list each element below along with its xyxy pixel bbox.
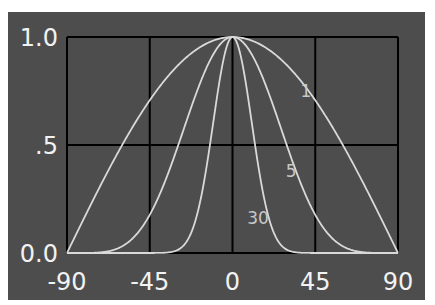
curve-label-30: 30 — [247, 208, 269, 228]
x-axis-ticks: -90-4504590 — [47, 268, 413, 296]
x-tick-label: 45 — [300, 268, 331, 296]
x-tick-label: -45 — [130, 268, 169, 296]
x-tick-label: 0 — [225, 268, 240, 296]
x-tick-label: -90 — [47, 268, 86, 296]
grid-lines — [67, 37, 398, 253]
x-tick-label: 90 — [383, 268, 414, 296]
curve-label-1: 1 — [301, 81, 312, 101]
y-tick-label: 1.0 — [20, 24, 58, 52]
y-axis-ticks: 0.0.51.0 — [20, 24, 58, 268]
y-tick-label: .5 — [35, 132, 58, 160]
chart: -90-4504590 0.0.51.0 1530 — [0, 0, 435, 305]
y-tick-label: 0.0 — [20, 240, 58, 268]
curve-label-5: 5 — [286, 161, 297, 181]
